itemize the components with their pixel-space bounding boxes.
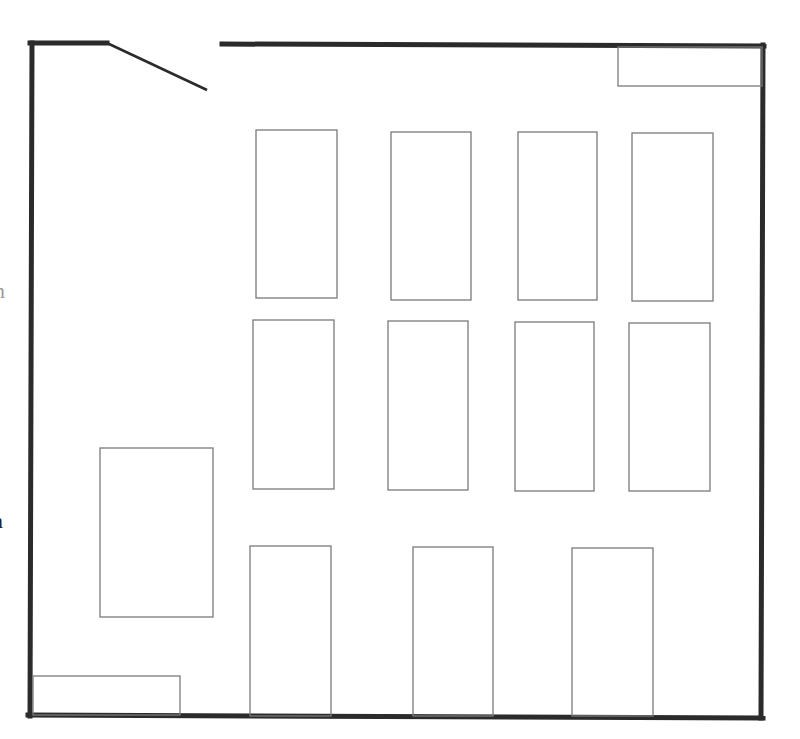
row3-table3	[572, 548, 653, 716]
row2-table1	[253, 320, 334, 489]
clipped-label-lower: n	[0, 510, 3, 532]
row2-table3	[515, 322, 594, 491]
door-swing	[107, 43, 207, 90]
row1-table4	[632, 133, 713, 301]
clipped-label-upper: n	[0, 280, 5, 302]
right-wall	[761, 45, 763, 718]
row2-table4	[629, 323, 710, 491]
row1-table3	[518, 132, 597, 300]
left-wall	[30, 43, 32, 716]
bottom-left-counter	[33, 676, 180, 715]
row1-table1	[256, 130, 337, 298]
row2-table2	[388, 321, 468, 490]
large-desk	[100, 448, 213, 617]
door-leaf	[107, 43, 207, 90]
floor-plan-canvas	[0, 0, 800, 739]
top-right-counter	[618, 47, 762, 86]
row3-table2	[413, 547, 493, 716]
top-right-wall	[222, 44, 764, 46]
tables-group	[250, 130, 713, 716]
row3-table1	[250, 546, 331, 716]
row1-table2	[391, 132, 471, 300]
